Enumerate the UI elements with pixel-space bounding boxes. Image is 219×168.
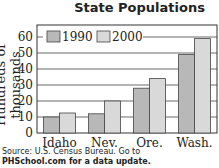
svg-text:2000: 2000 — [112, 30, 143, 44]
svg-text:30: 30 — [18, 78, 33, 92]
svg-text:60: 60 — [18, 30, 33, 44]
source-note: Source: U.S. Census Bureau. Go to PHScho… — [2, 147, 151, 167]
svg-text:0: 0 — [25, 126, 33, 140]
svg-text:Wash.: Wash. — [176, 136, 212, 150]
svg-text:20: 20 — [18, 94, 33, 108]
plot-area: 0102030405060IdahoNev.Ore.Wash.19902000 — [0, 0, 219, 168]
chart: State Populations Hundreds of thousands … — [0, 0, 219, 168]
svg-text:1990: 1990 — [62, 30, 93, 44]
svg-text:10: 10 — [18, 110, 33, 124]
source-line-1: Source: U.S. Census Bureau. Go to — [2, 147, 151, 157]
svg-text:40: 40 — [18, 62, 33, 76]
svg-text:50: 50 — [18, 46, 33, 60]
source-line-2: PHSchool.com for a data update. — [2, 157, 151, 167]
